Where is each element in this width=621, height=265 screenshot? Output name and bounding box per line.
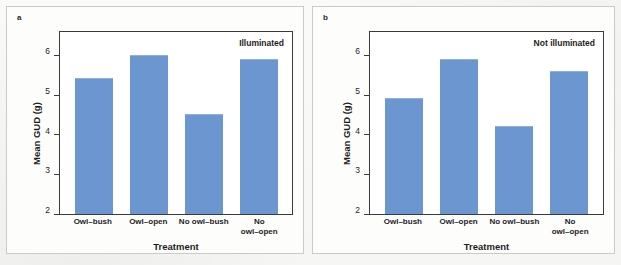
y-tick-label: 2 bbox=[45, 206, 50, 215]
panel-a-x-tick-labels: Owl–bushOwl–openNo owl–bushNo owl–open bbox=[59, 217, 293, 236]
y-tick-mark bbox=[54, 174, 59, 175]
bar-b-2 bbox=[440, 59, 478, 214]
x-tick-label-b-1: Owl–bush bbox=[375, 217, 431, 236]
x-tick-label-a-1: Owl–bush bbox=[65, 217, 121, 236]
y-tick-label: 4 bbox=[45, 126, 50, 135]
y-tick-mark bbox=[54, 95, 59, 96]
panel-b-letter: b bbox=[323, 13, 328, 22]
y-tick-label: 2 bbox=[355, 206, 360, 215]
y-tick-mark bbox=[364, 134, 369, 135]
y-tick-mark bbox=[364, 95, 369, 96]
panel-a-y-axis-title: Mean GUD (g) bbox=[31, 102, 42, 165]
y-tick-label: 3 bbox=[45, 166, 50, 175]
bar-b-3 bbox=[495, 126, 533, 214]
y-tick-mark bbox=[54, 55, 59, 56]
x-tick-label-a-3: No owl–bush bbox=[176, 217, 232, 236]
y-tick-label: 3 bbox=[355, 166, 360, 175]
bar-a-2 bbox=[130, 55, 168, 214]
bar-group bbox=[231, 32, 286, 214]
panel-b-x-axis-title: Treatment bbox=[369, 241, 604, 252]
x-tick-label-b-4: No owl–open bbox=[542, 217, 598, 236]
bar-group bbox=[176, 32, 231, 214]
x-tick-label-a-4: No owl–open bbox=[232, 217, 288, 236]
y-tick-mark bbox=[54, 214, 59, 215]
bar-group bbox=[121, 32, 176, 214]
y-tick-label: 6 bbox=[355, 47, 360, 56]
x-tick-label-b-3: No owl–bush bbox=[487, 217, 543, 236]
panel-a: a Mean GUD (g) Illuminated 23456 Owl–bus… bbox=[6, 6, 304, 254]
bar-group bbox=[376, 32, 431, 214]
y-tick-mark bbox=[364, 55, 369, 56]
panel-b-x-tick-labels: Owl–bushOwl–openNo owl–bushNo owl–open bbox=[369, 217, 604, 236]
y-tick-label: 4 bbox=[355, 126, 360, 135]
y-tick-label: 6 bbox=[45, 47, 50, 56]
panel-a-bars bbox=[60, 32, 292, 214]
bar-group bbox=[542, 32, 597, 214]
y-tick-mark bbox=[54, 134, 59, 135]
bar-a-1 bbox=[75, 78, 113, 214]
bar-group bbox=[431, 32, 486, 214]
panel-a-plot-area: Illuminated bbox=[59, 31, 293, 215]
bar-a-4 bbox=[240, 59, 278, 214]
panel-b-y-axis-title: Mean GUD (g) bbox=[341, 102, 352, 165]
panel-a-x-axis-title: Treatment bbox=[59, 241, 293, 252]
panel-b-bars bbox=[370, 32, 603, 214]
bar-b-1 bbox=[385, 98, 423, 214]
bar-group bbox=[66, 32, 121, 214]
y-tick-label: 5 bbox=[355, 87, 360, 96]
bar-a-3 bbox=[185, 114, 223, 214]
y-tick-mark bbox=[364, 214, 369, 215]
panel-b: b Mean GUD (g) Not illuminated 23456 Owl… bbox=[312, 6, 615, 254]
x-tick-label-a-2: Owl–open bbox=[121, 217, 177, 236]
figure-container: a Mean GUD (g) Illuminated 23456 Owl–bus… bbox=[0, 0, 621, 265]
panel-a-letter: a bbox=[17, 13, 22, 22]
x-tick-label-b-2: Owl–open bbox=[431, 217, 487, 236]
y-tick-mark bbox=[364, 174, 369, 175]
bar-b-4 bbox=[550, 71, 588, 214]
bar-group bbox=[487, 32, 542, 214]
y-tick-label: 5 bbox=[45, 87, 50, 96]
panel-b-plot-area: Not illuminated bbox=[369, 31, 604, 215]
